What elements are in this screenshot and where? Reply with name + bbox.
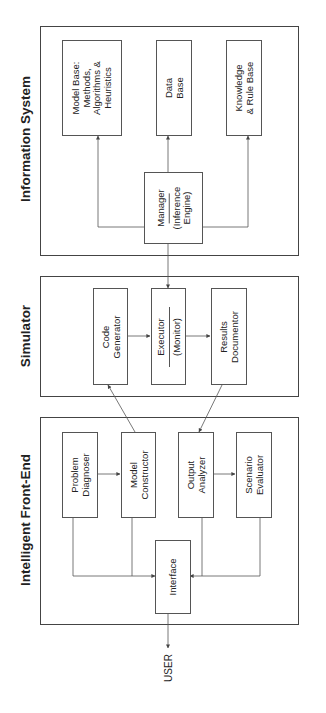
output-analyzer-box: Output Analyzer	[178, 432, 214, 518]
data-base-label-1: Data	[163, 78, 174, 98]
scenario-evaluator-box: Scenario Evaluator	[236, 432, 272, 518]
model-base-label-1: Model Base:	[70, 62, 81, 115]
executor-label-2: (Monitor)	[170, 318, 181, 356]
code-generator-label-1: Code	[99, 325, 110, 348]
scenario-evaluator-label-1: Scenario	[243, 456, 254, 494]
executor-divider	[168, 307, 169, 367]
problem-diagnoser-label-2: Diagnoser	[79, 453, 90, 496]
results-documentor-label-1: Results	[218, 321, 229, 353]
code-generator-box: Code Generator	[93, 288, 128, 385]
interface-box: Interface	[155, 540, 191, 614]
interface-label: Interface	[167, 559, 178, 596]
model-constructor-label-1: Model	[127, 462, 138, 488]
data-base-box: Data Base	[156, 40, 192, 136]
code-generator-label-2: Generator	[110, 315, 121, 358]
manager-label-3: Engine)	[180, 192, 191, 225]
executor-label-1: Executor	[155, 318, 166, 356]
output-analyzer-label-1: Output	[185, 461, 196, 490]
knowledge-base-box: Knowledge & Rule Base	[226, 40, 262, 136]
scenario-evaluator-label-2: Evaluator	[253, 455, 264, 495]
results-documentor-box: Results Documentor	[211, 288, 247, 385]
knowledge-base-label-2: & Rule Base	[243, 62, 254, 115]
manager-box: Manager (Inference Engine)	[144, 172, 203, 244]
model-constructor-label-2: Constructor	[138, 450, 149, 499]
model-base-label-3: Algorithms &	[91, 61, 102, 115]
model-base-box: Model Base: Methods, Algorithms & Heuris…	[62, 40, 122, 136]
model-base-label-2: Methods,	[81, 68, 92, 107]
results-documentor-label-2: Documentor	[228, 311, 239, 363]
manager-divider	[168, 193, 169, 223]
output-analyzer-label-2: Analyzer	[195, 457, 206, 494]
manager-label-1: Manager	[154, 189, 165, 227]
problem-diagnoser-box: Problem Diagnoser	[62, 432, 98, 518]
data-base-label-2: Base	[173, 77, 184, 99]
executor-box: Executor (Monitor)	[151, 288, 186, 385]
manager-label-2: (Inference	[170, 187, 181, 230]
user-label: USER	[163, 654, 174, 682]
knowledge-base-label-1: Knowledge	[233, 65, 244, 112]
model-constructor-box: Model Constructor	[121, 432, 156, 518]
model-base-label-4: Heuristics	[102, 67, 113, 109]
problem-diagnoser-label-1: Problem	[69, 457, 80, 492]
